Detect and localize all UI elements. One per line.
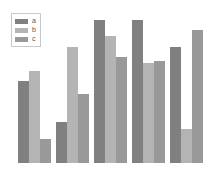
legend-item-label: a (32, 17, 36, 25)
bar-group (170, 20, 203, 163)
legend-swatch-icon (15, 19, 28, 24)
legend-item[interactable]: c (15, 35, 36, 43)
bar-b-4[interactable] (143, 63, 154, 163)
bar-chart: a b c (0, 0, 217, 183)
bar-b-3[interactable] (105, 36, 116, 163)
bar-group (132, 20, 165, 163)
legend-swatch-icon (15, 37, 28, 42)
bar-c-1[interactable] (40, 139, 51, 163)
legend-item-label: c (32, 35, 36, 43)
bar-a-1[interactable] (18, 81, 29, 163)
bar-a-3[interactable] (94, 20, 105, 163)
bar-group (56, 20, 89, 163)
bar-c-4[interactable] (154, 61, 165, 163)
bar-a-2[interactable] (56, 122, 67, 163)
legend-item[interactable]: a (15, 17, 36, 25)
bar-group (94, 20, 127, 163)
legend-swatch-icon (15, 28, 28, 33)
bar-a-4[interactable] (132, 20, 143, 163)
legend-item-label: b (32, 26, 36, 34)
bar-c-5[interactable] (192, 30, 203, 163)
bar-a-5[interactable] (170, 47, 181, 163)
bar-c-2[interactable] (78, 94, 89, 163)
bar-b-1[interactable] (29, 71, 40, 163)
bar-c-3[interactable] (116, 57, 127, 163)
chart-legend: a b c (11, 13, 41, 47)
bar-b-2[interactable] (67, 47, 78, 163)
legend-item[interactable]: b (15, 26, 36, 34)
bar-b-5[interactable] (181, 129, 192, 163)
